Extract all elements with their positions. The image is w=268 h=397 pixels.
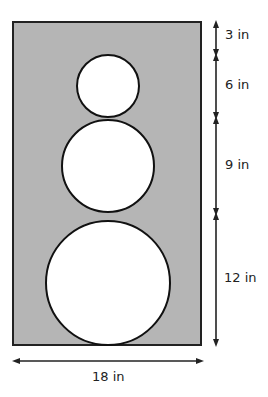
snowman-diagram: 3 in 6 in 9 in 12 in 18 in — [0, 0, 268, 397]
large-circle — [46, 221, 170, 345]
label-top-gap: 3 in — [225, 27, 249, 42]
small-circle — [77, 55, 139, 117]
label-width: 18 in — [92, 369, 125, 384]
label-small: 6 in — [225, 77, 249, 92]
label-middle: 9 in — [225, 157, 249, 172]
label-large: 12 in — [224, 270, 257, 285]
middle-circle — [62, 120, 154, 212]
